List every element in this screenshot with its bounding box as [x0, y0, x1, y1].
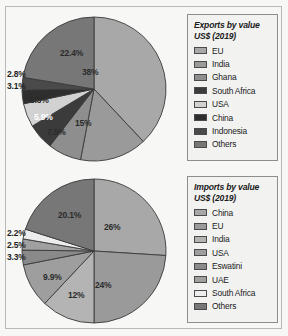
exports-legend-title-line1: Exports by value: [194, 20, 272, 31]
exports-legend-label: Indonesia: [212, 126, 247, 136]
imports-slice-label-eu: 24%: [95, 280, 111, 290]
exports-slice-label-china: 3.1%: [7, 81, 26, 91]
imports-panel: 26% 24% 12% 9.9% 3.3% 2.5% 2.2% 20.1% Im…: [6, 169, 283, 330]
exports-legend-label: EU: [212, 46, 223, 56]
exports-slice-label-others: 22.4%: [60, 48, 83, 58]
imports-slice-label-uae: 2.5%: [7, 240, 26, 250]
imports-legend-label: Others: [212, 301, 236, 311]
imports-legend-item[interactable]: USA: [194, 246, 272, 259]
imports-slice-label-others: 20.1%: [58, 210, 81, 220]
imports-legend: Imports by value US$ (2019) ChinaEUIndia…: [187, 176, 278, 323]
outer-frame: 38% 15% 7.5% 5.9% 5.3% 3.1% 2.8% 22.4% E…: [5, 6, 282, 329]
imports-legend-label: UAE: [212, 275, 229, 285]
exports-legend-swatch-icon: [194, 61, 207, 68]
imports-legend-swatch-icon: [194, 249, 207, 256]
imports-legend-item[interactable]: India: [194, 233, 272, 246]
imports-legend-title: Imports by value US$ (2019): [194, 182, 272, 203]
imports-pie-chart: 26% 24% 12% 9.9% 3.3% 2.5% 2.2% 20.1%: [20, 177, 168, 325]
imports-legend-swatch-icon: [194, 223, 207, 230]
imports-pie-svg: [20, 177, 168, 325]
exports-legend-label: USA: [212, 99, 229, 109]
exports-legend-swatch-icon: [194, 141, 207, 148]
imports-legend-swatch-icon: [194, 209, 207, 216]
exports-legend-item[interactable]: China: [194, 111, 272, 124]
imports-pie-graphic: [20, 177, 168, 325]
imports-legend-item[interactable]: EU: [194, 219, 272, 232]
exports-legend-label: Ghana: [212, 72, 236, 82]
imports-legend-item[interactable]: Eswatini: [194, 260, 272, 273]
exports-pie-graphic: [20, 15, 168, 163]
imports-slice-label-usa: 9.9%: [43, 272, 62, 282]
imports-legend-swatch-icon: [194, 290, 207, 297]
exports-pie-slice[interactable]: [23, 17, 94, 89]
imports-legend-swatch-icon: [194, 263, 207, 270]
imports-legend-items: ChinaEUIndiaUSAEswatiniUAESouth AfricaOt…: [194, 206, 272, 313]
imports-legend-label: South Africa: [212, 288, 255, 298]
exports-slice-label-india: 15%: [75, 118, 91, 128]
imports-legend-swatch-icon: [194, 276, 207, 283]
exports-pie-chart: 38% 15% 7.5% 5.9% 5.3% 3.1% 2.8% 22.4%: [20, 15, 168, 163]
imports-legend-label: EU: [212, 221, 223, 231]
exports-slice-label-eu: 38%: [82, 67, 98, 77]
page-root: 38% 15% 7.5% 5.9% 5.3% 3.1% 2.8% 22.4% E…: [0, 0, 288, 336]
exports-legend-label: China: [212, 113, 233, 123]
exports-legend-label: Others: [212, 139, 236, 149]
imports-legend-label: Eswatini: [212, 261, 242, 271]
imports-legend-title-line2: US$ (2019): [194, 193, 272, 204]
exports-legend-swatch-icon: [194, 114, 207, 121]
exports-legend-swatch-icon: [194, 87, 207, 94]
exports-legend-swatch-icon: [194, 74, 207, 81]
exports-panel: 38% 15% 7.5% 5.9% 5.3% 3.1% 2.8% 22.4% E…: [6, 7, 283, 168]
exports-legend-item[interactable]: India: [194, 57, 272, 70]
exports-legend-swatch-icon: [194, 101, 207, 108]
exports-legend-label: India: [212, 59, 229, 69]
exports-legend-item[interactable]: Ghana: [194, 71, 272, 84]
exports-legend-title-line2: US$ (2019): [194, 31, 272, 42]
imports-slice-label-china: 26%: [104, 222, 120, 232]
exports-legend-item[interactable]: EU: [194, 44, 272, 57]
exports-slice-label-usa: 5.3%: [30, 95, 49, 105]
imports-legend-item[interactable]: China: [194, 206, 272, 219]
imports-legend-label: India: [212, 234, 229, 244]
imports-legend-swatch-icon: [194, 236, 207, 243]
imports-legend-label: China: [212, 208, 233, 218]
exports-legend-item[interactable]: Others: [194, 138, 272, 151]
imports-slice-label-india: 12%: [68, 290, 84, 300]
exports-legend: Exports by value US$ (2019) EUIndiaGhana…: [187, 14, 278, 161]
exports-legend-label: South Africa: [212, 86, 255, 96]
exports-legend-item[interactable]: USA: [194, 98, 272, 111]
imports-legend-item[interactable]: Others: [194, 300, 272, 313]
exports-slice-label-indonesia: 2.8%: [7, 69, 26, 79]
exports-legend-swatch-icon: [194, 47, 207, 54]
imports-slice-label-eswatini: 3.3%: [7, 252, 26, 262]
imports-legend-title-line1: Imports by value: [194, 182, 272, 193]
imports-legend-item[interactable]: South Africa: [194, 286, 272, 299]
exports-legend-items: EUIndiaGhanaSouth AfricaUSAChinaIndonesi…: [194, 44, 272, 151]
imports-legend-swatch-icon: [194, 303, 207, 310]
exports-legend-item[interactable]: Indonesia: [194, 124, 272, 137]
exports-legend-title: Exports by value US$ (2019): [194, 20, 272, 41]
exports-slice-label-ghana: 7.5%: [47, 127, 66, 137]
exports-slice-label-south-africa: 5.9%: [34, 112, 53, 122]
imports-legend-label: USA: [212, 248, 229, 258]
imports-legend-item[interactable]: UAE: [194, 273, 272, 286]
exports-pie-svg: [20, 15, 168, 163]
exports-legend-swatch-icon: [194, 128, 207, 135]
imports-slice-label-south-africa: 2.2%: [7, 228, 26, 238]
imports-pie-slice[interactable]: [94, 179, 166, 256]
exports-legend-item[interactable]: South Africa: [194, 84, 272, 97]
